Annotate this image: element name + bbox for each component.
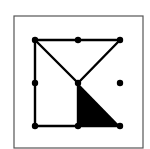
dot-TM: [75, 37, 81, 43]
dot-BM: [75, 123, 81, 129]
dot-BL: [32, 123, 38, 129]
dot-TL: [32, 37, 38, 43]
dot-ML: [32, 80, 38, 86]
segment-TR-C: [78, 40, 120, 83]
filled-triangle: [78, 83, 120, 126]
dot-TR: [117, 37, 123, 43]
dot-MR: [117, 80, 123, 86]
dot-BR: [117, 123, 123, 129]
segment-TL-C: [35, 40, 78, 83]
figure-canvas: [0, 0, 150, 149]
dot-C: [75, 80, 81, 86]
